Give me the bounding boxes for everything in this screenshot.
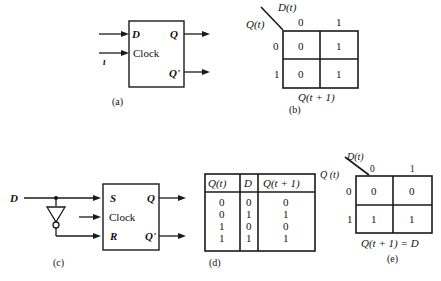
caption-a: (a) [112, 96, 123, 108]
figure-d-characteristic-table: Q(t) D Q(t + 1) 0 0 0 0 1 1 1 0 0 1 1 1 … [205, 174, 315, 269]
caption-e: (e) [387, 253, 398, 265]
caption-c: (c) [53, 257, 64, 269]
table-header: D [243, 177, 252, 189]
kmap-row-header: 0 [273, 40, 279, 52]
table-cell: 1 [283, 232, 289, 244]
arrow-icon [178, 195, 186, 201]
kmap-row-header: 1 [274, 68, 280, 80]
table-cell: 1 [246, 208, 252, 220]
kmap-row-header: 0 [346, 185, 352, 197]
figure-c-sr-d-flip-flop: D S Clock R Q Q' (c) [9, 184, 186, 269]
kmap-row-variable: Q(t) [246, 18, 265, 31]
kmap-cell: 0 [409, 185, 415, 197]
d-flip-flop-figure: D Clock ı Q Q' (a) D(t) Q(t) 0 1 0 1 0 1… [0, 0, 441, 281]
table-cell: 1 [283, 208, 289, 220]
arrow-icon [202, 69, 210, 75]
caption-b: (b) [289, 104, 301, 116]
arrow-icon [121, 31, 129, 37]
s-input-label: S [110, 192, 116, 204]
kmap-col-variable: D(t) [346, 151, 364, 163]
kmap-col-header: 1 [410, 164, 415, 174]
q-not-output-label: Q' [169, 67, 180, 79]
kmap-col-variable: D(t) [277, 1, 297, 14]
q-output-label: Q [147, 192, 155, 204]
stray-mark: ı [103, 57, 106, 67]
kmap-footer: Q(t + 1) = D [361, 237, 419, 250]
clock-input-label: Clock [109, 211, 136, 223]
table-cell: 1 [246, 232, 252, 244]
table-cell: 0 [219, 208, 225, 220]
kmap-cell: 1 [371, 213, 377, 225]
d-input-label: D [131, 28, 140, 40]
kmap-cell: 1 [336, 68, 342, 80]
table-cell: 0 [246, 220, 252, 232]
kmap-col-header: 0 [370, 164, 375, 174]
kmap-col-header: 1 [336, 16, 342, 28]
table-cell: 0 [246, 196, 252, 208]
kmap-row-header: 1 [347, 213, 353, 225]
table-header: Q(t + 1) [263, 177, 300, 190]
table-cell: 0 [283, 220, 289, 232]
kmap-cell: 1 [409, 213, 415, 225]
kmap-footer: Q(t + 1) [298, 91, 335, 104]
kmap-cell: 0 [298, 40, 304, 52]
arrow-icon [93, 214, 101, 220]
table-header: Q(t) [208, 177, 227, 190]
kmap-row-variable: Q (t) [320, 169, 340, 181]
inverter-icon [47, 207, 65, 222]
arrow-icon [121, 50, 129, 56]
kmap-cell: 0 [298, 68, 304, 80]
caption-d: (d) [209, 257, 221, 269]
arrow-icon [202, 31, 210, 37]
kmap-col-header: 0 [298, 16, 304, 28]
table-cell: 0 [283, 196, 289, 208]
arrow-icon [93, 233, 101, 239]
arrow-icon [178, 233, 186, 239]
r-input-label: R [109, 230, 117, 242]
kmap-cell: 1 [336, 40, 342, 52]
arrow-icon [93, 195, 101, 201]
figure-b-karnaugh-map: D(t) Q(t) 0 1 0 1 0 1 0 1 Q(t + 1) (b) [246, 1, 358, 116]
q-not-output-label: Q' [145, 230, 156, 242]
clock-input-label: Clock [133, 47, 160, 59]
figure-a-d-flip-flop: D Clock ı Q Q' (a) [99, 21, 210, 108]
d-input-label: D [9, 192, 18, 204]
table-cell: 1 [219, 220, 225, 232]
table-cell: 0 [219, 196, 225, 208]
q-output-label: Q [170, 28, 178, 40]
figure-e-karnaugh-map: D(t) Q (t) 0 1 0 1 0 0 1 1 Q(t + 1) = D … [320, 151, 432, 265]
kmap-cell: 0 [371, 185, 377, 197]
table-cell: 1 [219, 232, 225, 244]
